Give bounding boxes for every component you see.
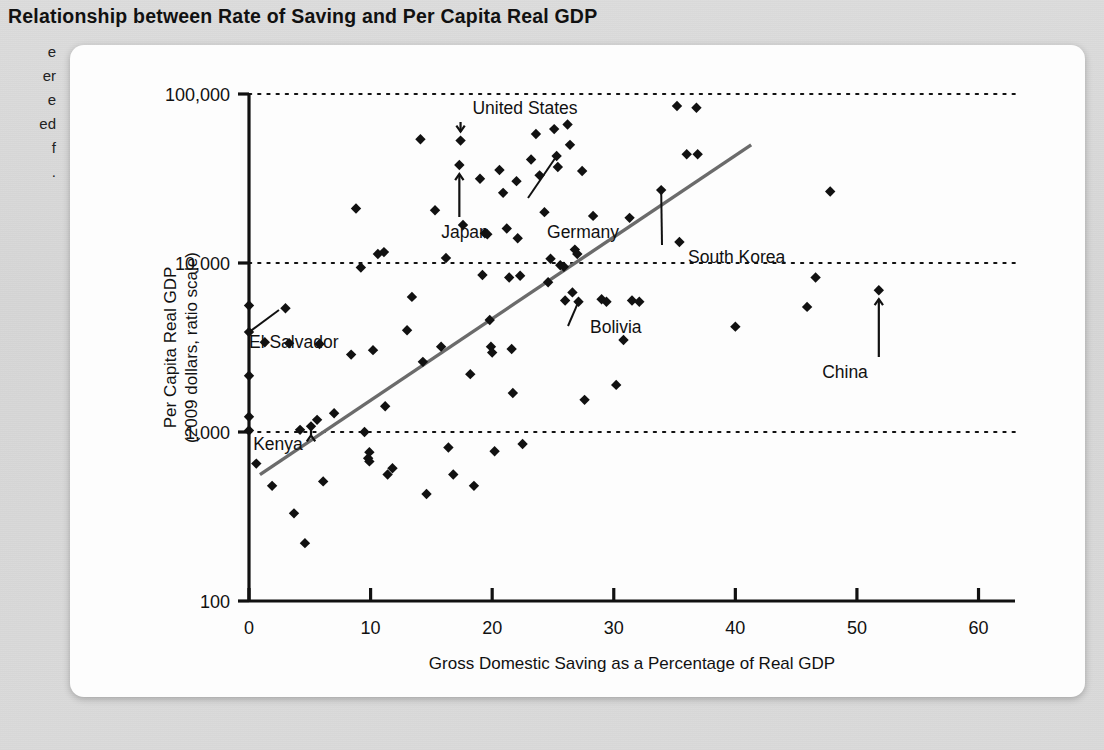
data-point [359, 427, 369, 437]
data-point [611, 380, 621, 390]
margin-note-line: ed [0, 112, 60, 136]
margin-note-line: er [0, 64, 60, 88]
x-tick-label: 10 [361, 618, 381, 638]
figure-title: Relationship between Rate of Saving and … [8, 5, 597, 28]
data-point [244, 371, 254, 381]
data-point [539, 207, 549, 217]
data-point [494, 165, 504, 175]
x-tick-label: 50 [847, 618, 867, 638]
data-point [579, 395, 589, 405]
data-point [577, 166, 587, 176]
annotation-label: United States [472, 98, 577, 118]
annotation-leader-line [249, 310, 279, 332]
annotation: United States [456, 98, 577, 132]
data-point [553, 162, 563, 172]
data-point [380, 401, 390, 411]
y-tick-label: 100 [200, 592, 230, 612]
data-point [549, 124, 559, 134]
data-point [443, 442, 453, 452]
annotation: South Korea [661, 190, 785, 267]
data-point [454, 160, 464, 170]
data-point [280, 303, 290, 313]
scatter-plot: 1001,00010,000100,0000102030405060Gross … [70, 45, 1085, 697]
data-point [351, 203, 361, 213]
data-point [511, 176, 521, 186]
data-point [624, 213, 634, 223]
annotation-label: Kenya [253, 434, 303, 454]
data-point [441, 253, 451, 263]
margin-note-line: f [0, 136, 60, 160]
annotation: Japan [441, 174, 489, 242]
data-point [674, 237, 684, 247]
x-tick-label: 40 [725, 618, 745, 638]
margin-note-line: e [0, 88, 60, 112]
annotation-label: El Salvador [249, 332, 339, 352]
data-point [329, 408, 339, 418]
x-tick-label: 30 [604, 618, 624, 638]
y-axis-title-line1: Per Capita Real GDP [161, 267, 180, 429]
annotation-label: South Korea [688, 247, 786, 267]
annotation-label: Japan [441, 222, 489, 242]
data-point [421, 489, 431, 499]
annotation-leader-line [568, 302, 579, 326]
data-point [318, 476, 328, 486]
margin-note-column: e er e ed f . [0, 40, 60, 184]
annotation-label: Bolivia [590, 317, 642, 337]
data-point [267, 481, 277, 491]
data-point [691, 102, 701, 112]
x-axis-title: Gross Domestic Saving as a Percentage of… [429, 654, 835, 673]
data-point [562, 119, 572, 129]
data-point [469, 481, 479, 491]
data-point [300, 538, 310, 548]
data-point [368, 345, 378, 355]
data-point [588, 211, 598, 221]
data-point [475, 174, 485, 184]
figure-card: 1001,00010,000100,0000102030405060Gross … [70, 45, 1085, 697]
x-tick-label: 20 [482, 618, 502, 638]
data-point [506, 344, 516, 354]
data-point [802, 302, 812, 312]
data-point [402, 325, 412, 335]
data-point [498, 188, 508, 198]
data-point [244, 412, 254, 422]
data-point [513, 233, 523, 243]
data-point [502, 223, 512, 233]
margin-note-line: e [0, 40, 60, 64]
data-points [244, 101, 884, 549]
data-point [874, 285, 884, 295]
y-axis-title-line2: (2009 dollars, ratio scale) [182, 252, 201, 443]
data-point [517, 439, 527, 449]
data-point [515, 271, 525, 281]
annotation-label: China [822, 362, 868, 382]
data-point [682, 149, 692, 159]
data-point [692, 149, 702, 159]
data-point [312, 415, 322, 425]
data-point [465, 369, 475, 379]
annotation-leader-line [661, 190, 662, 245]
data-point [346, 349, 356, 359]
data-point [430, 205, 440, 215]
x-tick-label: 60 [969, 618, 989, 638]
annotation: Germany [528, 156, 619, 242]
data-point [567, 287, 577, 297]
data-point [730, 321, 740, 331]
data-point [289, 508, 299, 518]
data-point [672, 101, 682, 111]
data-point [418, 357, 428, 367]
plot-svg: 1001,00010,000100,0000102030405060Gross … [70, 45, 1085, 697]
annotation: El Salvador [249, 310, 339, 352]
data-point [489, 446, 499, 456]
data-point [526, 154, 536, 164]
data-point [407, 292, 417, 302]
data-point [508, 388, 518, 398]
data-point [415, 134, 425, 144]
data-point [560, 295, 570, 305]
y-tick-label: 100,000 [165, 85, 230, 105]
data-point [356, 262, 366, 272]
margin-note-line: . [0, 160, 60, 184]
annotation-label: Germany [547, 222, 619, 242]
annotation: Bolivia [568, 302, 642, 337]
data-point [825, 186, 835, 196]
data-point [810, 272, 820, 282]
data-point [448, 469, 458, 479]
